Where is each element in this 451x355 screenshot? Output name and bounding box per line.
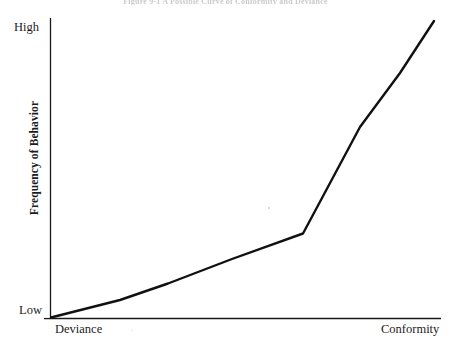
data-series-line xyxy=(51,21,434,318)
y-axis-title: Frequency of Behavior xyxy=(28,68,40,248)
scan-speck xyxy=(268,207,270,209)
y-axis-label-high: High xyxy=(14,20,39,35)
chart-plot-area xyxy=(0,0,451,355)
figure-container: Figure 9-1 A Possible Curve of Conformit… xyxy=(0,0,451,355)
y-axis-label-low: Low xyxy=(19,303,42,318)
x-axis-label-deviance: Deviance xyxy=(55,322,102,337)
scan-speck xyxy=(131,330,133,331)
x-axis-label-conformity: Conformity xyxy=(381,322,439,337)
